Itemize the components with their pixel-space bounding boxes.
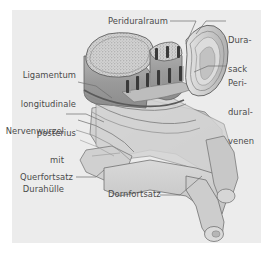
label-dornfortsatz: Dornfortsatz <box>108 190 161 200</box>
label-querfortsatz: Querfortsatz <box>20 173 73 183</box>
anatomical-figure: Periduralraum Dura- sack Ligamentum long… <box>0 0 273 254</box>
label-ligamentum-line1: Ligamentum <box>0 71 76 81</box>
vertebral-body-cut-surface <box>86 33 153 77</box>
label-periduralvenen-line3: venen <box>228 137 254 147</box>
label-periduralvenen-line1: Peri- <box>228 79 254 89</box>
label-nervenwurzel-line1: Nervenwurzel <box>0 127 64 137</box>
label-nervenwurzel-mit-durahuelle: Nervenwurzel mit Durahülle <box>0 108 64 214</box>
label-nervenwurzel-line2: mit <box>0 156 64 166</box>
label-periduralvenen: Peri- dural- venen <box>228 60 254 166</box>
label-nervenwurzel-line3: Durahülle <box>0 185 64 195</box>
label-periduralraum: Periduralraum <box>108 17 168 27</box>
label-periduralvenen-line2: dural- <box>228 108 254 118</box>
label-durasack-line1: Dura- <box>228 36 252 46</box>
